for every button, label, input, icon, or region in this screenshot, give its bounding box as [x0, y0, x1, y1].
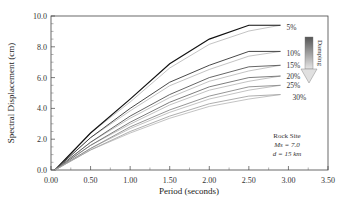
series-line	[55, 85, 281, 170]
series-companion-line	[55, 65, 281, 170]
damping-arrow-icon	[301, 37, 317, 83]
site-note-line-2: Ms = 7.0	[273, 141, 300, 149]
series-line	[55, 76, 281, 170]
series-label: 20%	[287, 72, 301, 81]
series-label: 10%	[287, 49, 301, 58]
x-tick-label: 2.00	[202, 176, 216, 185]
series-companion-line	[55, 85, 281, 170]
x-axis: 0.000.501.001.502.002.503.003.50	[44, 166, 335, 185]
series-labels: 5%10%15%20%25%30%	[287, 23, 307, 101]
series-line	[55, 65, 281, 170]
series-label: 5%	[287, 23, 297, 32]
y-tick-label: 8.0	[37, 43, 47, 52]
series-companion-line	[55, 25, 281, 170]
series-label: 15%	[287, 61, 301, 70]
y-tick-label: 4.0	[37, 104, 47, 113]
x-tick-label: 0.00	[44, 176, 58, 185]
spectral-displacement-chart: 0.02.04.06.08.010.0 0.000.501.001.502.00…	[0, 0, 347, 211]
series-label: 25%	[287, 81, 301, 90]
series-companion-line	[55, 76, 281, 170]
site-note-line-3: d = 15 km	[273, 150, 302, 158]
y-tick-label: 6.0	[37, 74, 47, 83]
y-tick-label: 0.0	[37, 166, 47, 175]
series-line	[55, 25, 281, 170]
x-tick-label: 2.50	[242, 176, 256, 185]
site-note-line-1: Rock Site	[273, 132, 300, 140]
y-axis: 0.02.04.06.08.010.0	[33, 12, 55, 175]
y-tick-label: 2.0	[37, 135, 47, 144]
x-tick-label: 0.50	[84, 176, 98, 185]
x-tick-label: 3.50	[321, 176, 335, 185]
damping-label: Damping	[316, 40, 324, 67]
x-axis-title: Period (seconds)	[159, 186, 219, 196]
x-tick-label: 3.00	[281, 176, 295, 185]
x-tick-label: 1.00	[123, 176, 137, 185]
x-tick-label: 1.50	[163, 176, 177, 185]
data-series	[55, 25, 281, 170]
y-axis-title: Spectral Displacement (cm)	[6, 43, 16, 143]
series-label: 30%	[293, 93, 307, 102]
y-tick-label: 10.0	[33, 12, 47, 21]
